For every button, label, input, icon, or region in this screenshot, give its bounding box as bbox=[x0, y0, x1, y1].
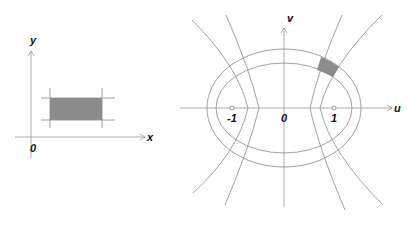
left-hyperbola-inner bbox=[225, 15, 259, 205]
xy-plane: y x 0 bbox=[15, 34, 154, 158]
focus-point-right bbox=[332, 106, 336, 110]
focus-point-left bbox=[230, 106, 234, 110]
shaded-rectangle bbox=[50, 98, 102, 120]
conformal-map-diagram: y x 0 v u 0 -1 1 bbox=[0, 0, 416, 226]
focus-label-left: -1 bbox=[227, 112, 237, 124]
v-axis-label: v bbox=[287, 12, 294, 24]
uv-plane: v u 0 -1 1 bbox=[180, 12, 401, 210]
y-axis-label: y bbox=[29, 34, 37, 46]
focus-label-right: 1 bbox=[331, 112, 337, 124]
origin-label-uv: 0 bbox=[281, 112, 288, 124]
origin-label: 0 bbox=[30, 142, 37, 154]
right-hyperbola-outer bbox=[320, 15, 383, 205]
u-axis-label: u bbox=[394, 102, 401, 114]
left-hyperbola-outer bbox=[192, 20, 248, 193]
right-hyperbola-inner bbox=[310, 15, 345, 210]
x-axis-label: x bbox=[146, 131, 154, 143]
